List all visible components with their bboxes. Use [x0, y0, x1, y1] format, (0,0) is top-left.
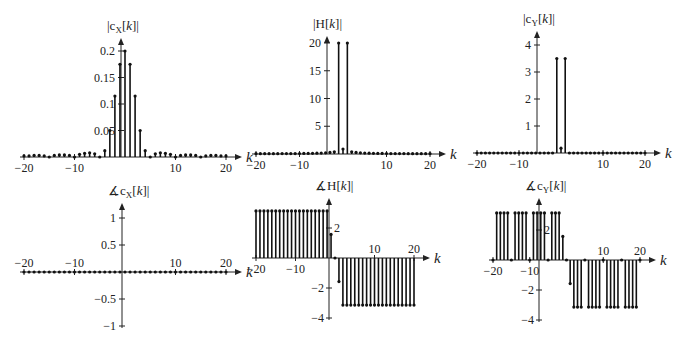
stem-marker — [33, 154, 36, 157]
stem-marker — [363, 151, 366, 154]
stem-marker — [154, 152, 157, 155]
y-tick-label: 15 — [309, 64, 321, 78]
x-tick-label: −20 — [15, 161, 34, 175]
stem-marker — [224, 154, 227, 157]
x-tick-label: 20 — [220, 161, 232, 175]
stem-marker — [583, 258, 586, 261]
chart-title: |H[k]| — [313, 16, 342, 31]
stem-marker — [108, 270, 111, 273]
stem-marker — [555, 57, 558, 60]
stem-marker — [576, 151, 579, 154]
stem-marker — [346, 41, 349, 44]
stem-marker — [569, 282, 572, 285]
stem-marker — [620, 258, 623, 261]
chart-title: ∡cY[k]| — [525, 178, 566, 195]
x-axis-arrow-icon — [649, 257, 656, 263]
stem-marker — [199, 155, 202, 158]
stem-marker — [83, 270, 86, 273]
stem-marker — [568, 151, 571, 154]
stem-marker — [272, 152, 275, 155]
stem-marker — [373, 304, 376, 307]
y-axis-arrow-icon — [324, 36, 330, 43]
stem-marker — [372, 152, 375, 155]
x-tick-label: −20 — [247, 158, 266, 172]
stem-marker — [329, 233, 332, 236]
stem-marker — [22, 270, 25, 273]
stem-marker — [609, 306, 612, 309]
stem-marker — [73, 270, 76, 273]
stem-marker — [492, 151, 495, 154]
x-tick-label: 10 — [381, 158, 393, 172]
x-axis-label: k — [434, 250, 441, 266]
stem-marker — [572, 306, 575, 309]
stem-marker — [559, 147, 562, 150]
stem-marker — [328, 151, 331, 154]
stem-marker — [564, 57, 567, 60]
stem-marker — [618, 151, 621, 154]
chart-panel-cx_mag: k−20−1010200.050.10.150.2|cX[k]| — [15, 18, 253, 175]
stem-marker — [495, 211, 498, 214]
stem-marker — [276, 152, 279, 155]
stem-marker — [491, 258, 494, 261]
stem-marker — [412, 304, 415, 307]
stem-marker — [113, 270, 116, 273]
stem-marker — [407, 152, 410, 155]
stem-marker — [282, 209, 285, 212]
stem-marker — [524, 211, 527, 214]
stem-marker — [394, 152, 397, 155]
stem-marker — [285, 152, 288, 155]
stem-marker — [530, 151, 533, 154]
stem-marker — [68, 270, 71, 273]
stem-marker — [369, 304, 372, 307]
stem-marker — [614, 151, 617, 154]
x-tick-label: −10 — [290, 158, 309, 172]
stem-marker — [262, 209, 265, 212]
stem-marker — [377, 304, 380, 307]
y-axis-arrow-icon — [536, 198, 542, 205]
stem-marker — [43, 154, 46, 157]
stem-marker — [405, 304, 408, 307]
stem-marker — [365, 304, 368, 307]
chart-title: ∡cX[k]| — [108, 183, 149, 200]
stem-marker — [93, 270, 96, 273]
stem-marker — [510, 258, 513, 261]
stem-marker — [627, 151, 630, 154]
stem-marker — [298, 209, 301, 212]
stem-marker — [589, 151, 592, 154]
stem-marker — [341, 304, 344, 307]
stem-marker — [93, 152, 96, 155]
x-tick-label: −20 — [15, 256, 34, 270]
y-tick-label: −1 — [103, 319, 116, 333]
y-tick-label: 0.1 — [100, 97, 115, 111]
stem-marker — [128, 63, 131, 66]
stem-marker — [551, 151, 554, 154]
stem-marker — [169, 270, 172, 273]
x-tick-label: 10 — [597, 244, 609, 258]
chart-panel-cx_phase: k−20−101020−1−0.50.51∡cX[k]| — [15, 183, 253, 333]
stem-marker — [616, 306, 619, 309]
stem-marker — [585, 151, 588, 154]
stem-marker — [286, 209, 289, 212]
stem-marker — [554, 211, 557, 214]
stem-marker — [638, 258, 641, 261]
stem-marker — [594, 306, 597, 309]
stem-marker — [258, 209, 261, 212]
stem-marker — [289, 152, 292, 155]
x-tick-label: 10 — [170, 256, 182, 270]
stem-marker — [33, 270, 36, 273]
x-axis-label: k — [450, 146, 457, 162]
x-tick-label: 10 — [597, 157, 609, 171]
stem-marker — [624, 306, 627, 309]
stem-marker — [318, 209, 321, 212]
stem-marker — [209, 154, 212, 157]
stem-marker — [123, 270, 126, 273]
stem-marker — [83, 152, 86, 155]
stem-marker — [488, 151, 491, 154]
y-tick-label: 5 — [315, 119, 321, 133]
stem-marker — [123, 49, 126, 52]
stem-marker — [214, 154, 217, 157]
stem-marker — [480, 151, 483, 154]
x-tick-label: −10 — [520, 264, 539, 278]
stem-marker — [184, 270, 187, 273]
x-tick-label: 20 — [639, 157, 651, 171]
